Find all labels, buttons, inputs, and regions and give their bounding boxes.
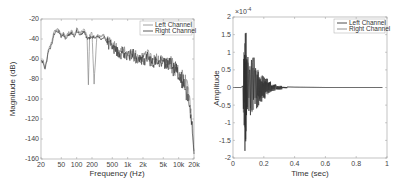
right-plot-xlabel: Time (sec) xyxy=(291,169,329,178)
x-tick-label: 100 xyxy=(71,161,83,168)
y-tick-label: 0.5 xyxy=(221,66,231,73)
x-tick-label: 2k xyxy=(139,161,147,168)
x-tick-label: 1k xyxy=(124,161,132,168)
y-tick-label: -80 xyxy=(29,75,39,82)
left-plot-xlabel: Frequency (Hz) xyxy=(89,169,144,178)
y-tick-label: -120 xyxy=(25,115,39,122)
x-tick-label: 200 xyxy=(86,161,98,168)
right-plot-multiplier: ×10-4 xyxy=(235,6,252,15)
left-plot-axes-box xyxy=(41,19,194,159)
right-plot-ylabel: Amplitude xyxy=(212,70,221,106)
y-tick-label: -1.5 xyxy=(219,137,231,144)
y-tick-label: -140 xyxy=(25,135,39,142)
x-tick-label: 5k xyxy=(160,161,168,168)
y-tick-label: -60 xyxy=(29,55,39,62)
magnitude-plot: 20501002005001k2k5k10k20k-20-40-60-80-10… xyxy=(8,15,200,178)
y-tick-label: -2 xyxy=(225,154,231,161)
x-tick-label: 10k xyxy=(173,161,185,168)
x-tick-label: 500 xyxy=(106,161,118,168)
y-tick-label: -20 xyxy=(29,15,39,22)
x-tick-label: 0.2 xyxy=(259,160,269,167)
x-tick-label: 20k xyxy=(188,161,200,168)
x-tick-label: 0 xyxy=(231,160,235,167)
amplitude-plot: 00.20.40.60.8121.510.50-0.5-1-1.5-2 ×10-… xyxy=(212,6,391,178)
y-tick-label: 2 xyxy=(227,13,231,20)
x-tick-label: 0.8 xyxy=(351,160,361,167)
left-legend-label-right-channel: Right Channel xyxy=(155,27,197,35)
chart-canvas: 20501002005001k2k5k10k20k-20-40-60-80-10… xyxy=(0,0,408,190)
right-legend-label-right-channel: Right Channel xyxy=(349,25,391,33)
y-tick-label: 1.5 xyxy=(221,31,231,38)
left-plot-ylabel: Magnitude (dB) xyxy=(8,61,17,116)
right-plot-legend: Left Channel Right Channel xyxy=(334,19,391,33)
y-tick-label: 0 xyxy=(227,84,231,91)
left-plot-legend: Left Channel Right Channel xyxy=(140,21,197,35)
x-tick-label: 0.4 xyxy=(290,160,300,167)
x-tick-label: 50 xyxy=(57,161,65,168)
y-tick-label: -40 xyxy=(29,35,39,42)
y-tick-label: -1 xyxy=(225,119,231,126)
y-tick-label: 1 xyxy=(227,49,231,56)
y-tick-label: -100 xyxy=(25,95,39,102)
x-tick-label: 0.6 xyxy=(321,160,331,167)
y-tick-label: -160 xyxy=(25,155,39,162)
x-tick-label: 1 xyxy=(385,160,389,167)
